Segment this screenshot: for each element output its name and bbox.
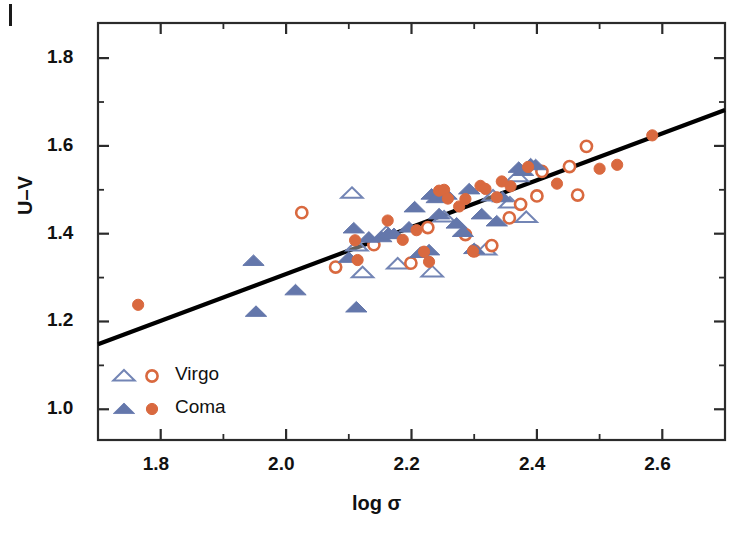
marker-open-triangle (516, 211, 537, 222)
marker-open-circle (572, 189, 583, 200)
marker-open-circle (405, 258, 416, 269)
marker-filled-triangle (471, 208, 492, 219)
marker-filled-circle (594, 163, 605, 174)
marker-open-triangle (422, 266, 443, 277)
marker-filled-circle (480, 183, 491, 194)
x-tick-label: 2.0 (268, 453, 294, 475)
marker-filled-circle (397, 234, 408, 245)
marker-filled-circle (133, 299, 144, 310)
scatter-plot (0, 0, 749, 537)
marker-open-circle (422, 222, 433, 233)
marker-filled-circle (349, 235, 360, 246)
marker-filled-circle (411, 225, 422, 236)
marker-filled-triangle (245, 306, 266, 317)
marker-open-circle (581, 141, 592, 152)
marker-filled-circle (647, 130, 658, 141)
marker-filled-circle (612, 159, 623, 170)
marker-filled-circle (460, 193, 471, 204)
marker-filled-circle (505, 181, 516, 192)
data-points (133, 130, 658, 317)
figure-panel: U–V log σ 1.82.02.22.42.61.01.21.41.61.8… (0, 0, 749, 537)
marker-filled-circle (442, 193, 453, 204)
legend-triangle-coma (113, 403, 134, 414)
marker-filled-triangle (346, 301, 367, 312)
y-axis-title: U–V (14, 176, 37, 215)
marker-filled-circle (491, 192, 502, 203)
marker-filled-circle (423, 256, 434, 267)
marker-open-circle (531, 190, 542, 201)
y-tick-label: 1.8 (47, 46, 73, 68)
x-tick-label: 2.6 (644, 453, 670, 475)
marker-filled-circle (467, 246, 478, 257)
marker-filled-circle (551, 178, 562, 189)
x-tick-label: 2.2 (394, 453, 420, 475)
marker-filled-triangle (243, 255, 264, 266)
y-tick-label: 1.4 (47, 222, 73, 244)
marker-filled-triangle (404, 201, 425, 212)
marker-filled-triangle (285, 284, 306, 295)
y-tick-label: 1.6 (47, 134, 73, 156)
marker-open-triangle (341, 187, 362, 198)
x-tick-label: 2.4 (519, 453, 545, 475)
y-tick-label: 1.0 (47, 397, 73, 419)
marker-open-circle (330, 261, 341, 272)
marker-filled-triangle (343, 222, 364, 233)
legend-label-virgo: Virgo (175, 363, 219, 385)
marker-open-circle (515, 199, 526, 210)
marker-filled-circle (418, 246, 429, 257)
legend-markers (113, 370, 157, 415)
marker-open-circle (296, 207, 307, 218)
marker-open-circle (564, 161, 575, 172)
marker-open-circle (486, 240, 497, 251)
marker-open-circle (504, 212, 515, 223)
legend-circle-virgo (146, 370, 157, 381)
y-tick-label: 1.2 (47, 309, 73, 331)
x-tick-label: 1.8 (143, 453, 169, 475)
x-axis-title: log σ (352, 492, 401, 515)
marker-filled-circle (382, 215, 393, 226)
marker-filled-circle (352, 254, 363, 265)
marker-filled-circle (523, 161, 534, 172)
legend-triangle-virgo (113, 370, 134, 381)
series-3 (133, 130, 658, 311)
legend-label-coma: Coma (175, 396, 226, 418)
marker-open-triangle (352, 267, 373, 278)
legend-circle-coma (146, 403, 157, 414)
